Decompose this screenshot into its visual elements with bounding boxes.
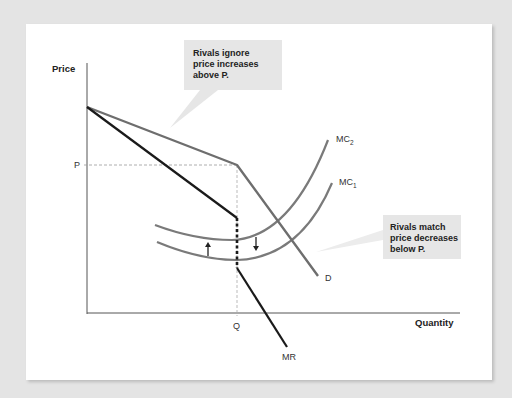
mr-lower-segment — [237, 268, 287, 347]
mc1-label: MC1 — [339, 177, 357, 189]
callout-rivals-match: Rivals match price decreases below P. — [316, 215, 461, 259]
quantity-tick-label: Q — [233, 321, 240, 331]
arrow-up-icon — [205, 242, 211, 256]
callout-2-line-3: below P. — [390, 244, 425, 254]
callout-rivals-ignore: Rivals ignore price increases above P. — [170, 40, 282, 128]
callout-1-line-3: above P. — [193, 70, 229, 80]
callout-1-line-2: price increases — [193, 59, 259, 69]
callout-1-line-1: Rivals ignore — [193, 48, 250, 58]
arrow-down-icon — [253, 237, 259, 251]
mc2-curve — [155, 140, 328, 240]
demand-label: D — [325, 273, 332, 283]
mc2-label: MC2 — [336, 134, 354, 146]
y-axis-label: Price — [52, 63, 75, 74]
price-tick-label: P — [74, 160, 80, 170]
mr-label: MR — [282, 352, 296, 362]
kinked-demand-diagram: Rivals ignore price increases above P. R… — [0, 0, 512, 398]
x-axis-label: Quantity — [415, 317, 454, 328]
callout-2-line-1: Rivals match — [390, 222, 446, 232]
callout-2-line-2: price decreases — [390, 233, 458, 243]
mr-upper-segment — [87, 107, 237, 218]
mc1-curve — [157, 183, 332, 260]
